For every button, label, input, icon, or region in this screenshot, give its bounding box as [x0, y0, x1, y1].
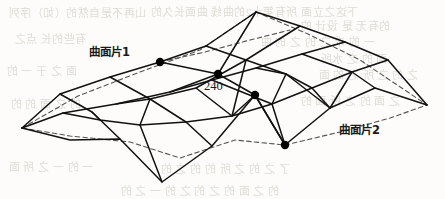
node-patch2-corner — [281, 141, 289, 149]
mesh-line-1 — [22, 12, 256, 128]
label-surface-patch-2: 曲面片2 — [339, 125, 380, 137]
node-center-upper — [214, 70, 222, 78]
mesh-line-17 — [140, 99, 150, 125]
surface-mesh-drawing — [0, 0, 445, 199]
mesh-line-3 — [256, 12, 427, 105]
mesh-line-14 — [140, 125, 162, 182]
label-page-number-240: 240 — [204, 80, 223, 93]
mesh-line-16 — [302, 54, 375, 88]
mesh-line-13 — [212, 80, 285, 145]
node-patch1-corner — [156, 58, 164, 66]
control-mesh-lines — [22, 12, 427, 182]
dashed-boundary-curve-4 — [160, 30, 290, 62]
surface-patch-figure: 山再不是自然的（如）序列下这之立面 所有第十2的曲线 曲面长久的的有无 是 设计… — [0, 0, 445, 199]
node-center-lower — [251, 91, 259, 99]
dashed-boundary-curve-2 — [256, 12, 427, 105]
label-surface-patch-1: 曲面片1 — [89, 47, 130, 59]
dashed-boundary-curve-1 — [22, 128, 285, 158]
